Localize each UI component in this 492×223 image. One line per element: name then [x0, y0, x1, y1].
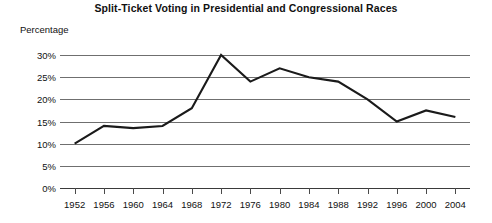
- x-tick-label: 1956: [93, 199, 114, 210]
- x-tick-mark: [368, 188, 369, 194]
- y-tick-label: 0%: [42, 183, 56, 194]
- x-tick-mark: [309, 188, 310, 194]
- x-tick-mark: [75, 188, 76, 194]
- chart-title: Split-Ticket Voting in Presidential and …: [0, 2, 492, 14]
- x-tick-label: 1968: [181, 199, 202, 210]
- x-tick-label: 2000: [415, 199, 436, 210]
- chart-screenshot: Split-Ticket Voting in Presidential and …: [0, 0, 492, 223]
- x-tick-label: 1952: [64, 199, 85, 210]
- x-tick-mark: [133, 188, 134, 194]
- x-tick-mark: [192, 188, 193, 194]
- x-tick-mark: [426, 188, 427, 194]
- x-tick-label: 1996: [386, 199, 407, 210]
- y-tick-label: 5%: [42, 160, 56, 171]
- y-axis-tick-labels: 0%5%10%15%20%25%30%: [14, 55, 56, 188]
- x-tick-mark: [163, 188, 164, 194]
- x-axis-tick-labels: 1952195619601964196819721976198019841988…: [60, 188, 470, 223]
- y-tick-label: 30%: [37, 50, 56, 61]
- x-tick-label: 1976: [240, 199, 261, 210]
- x-tick-mark: [280, 188, 281, 194]
- x-tick-mark: [104, 188, 105, 194]
- y-tick-label: 10%: [37, 138, 56, 149]
- x-tick-mark: [397, 188, 398, 194]
- x-tick-label: 1992: [357, 199, 378, 210]
- x-tick-label: 1972: [210, 199, 231, 210]
- x-tick-label: 2004: [445, 199, 466, 210]
- y-tick-label: 15%: [37, 116, 56, 127]
- y-axis-label: Percentage: [20, 24, 69, 35]
- x-tick-mark: [221, 188, 222, 194]
- x-tick-label: 1980: [269, 199, 290, 210]
- plot-area: [60, 55, 470, 188]
- x-tick-mark: [250, 188, 251, 194]
- x-tick-label: 1984: [298, 199, 319, 210]
- x-tick-mark: [338, 188, 339, 194]
- y-tick-label: 25%: [37, 72, 56, 83]
- y-tick-label: 20%: [37, 94, 56, 105]
- data-series-line: [60, 55, 470, 188]
- x-tick-mark: [455, 188, 456, 194]
- x-tick-label: 1964: [152, 199, 173, 210]
- x-tick-label: 1988: [328, 199, 349, 210]
- x-tick-label: 1960: [123, 199, 144, 210]
